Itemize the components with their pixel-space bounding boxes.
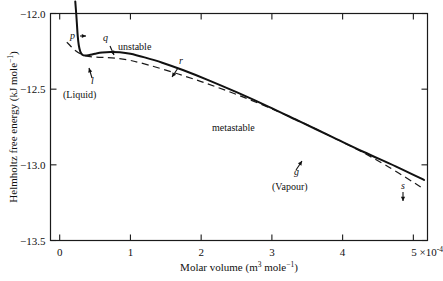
annotation-label-vapour: (Vapour): [272, 181, 308, 193]
x-tick-label: 0: [57, 246, 63, 258]
x-axis-title: Molar volume (m3 mole−1): [180, 260, 298, 274]
x-tick-label: 1: [128, 246, 134, 258]
annotation-label-p: p: [69, 30, 75, 41]
annotation-label-unstable: unstable: [118, 41, 152, 52]
x-tick-label: 3: [269, 246, 275, 258]
annotation-label-liquid: (Liquid): [63, 89, 96, 101]
annotation-label-r: r: [179, 55, 183, 66]
annotation-label-s: s: [401, 180, 405, 191]
y-axis-tick-labels: −12.0−12.5−13.0−13.5: [20, 8, 46, 247]
y-tick-label: −12.0: [20, 8, 46, 20]
y-tick-label: −13.5: [20, 235, 46, 247]
annotation-label-q: q: [103, 32, 108, 43]
x-axis-tick-labels: 012345 ×10-4: [57, 245, 443, 258]
annotation-label-g: g: [294, 166, 299, 177]
x-tick-label: 5 ×10-4: [411, 245, 443, 258]
y-tick-label: −13.0: [20, 159, 46, 171]
figure-container: 012345 ×10-4 −12.0−12.5−13.0−13.5 pql(Li…: [0, 0, 443, 281]
annotation-label-l: l: [91, 75, 94, 86]
x-tick-label: 4: [340, 246, 346, 258]
annotation-label-metastable: metastable: [212, 122, 255, 133]
y-tick-label: −12.5: [20, 83, 46, 95]
y-axis-title: Helmholtz free energy (kJ mole−1): [6, 51, 20, 203]
x-tick-label: 2: [198, 246, 204, 258]
helmholtz-free-energy-chart: 012345 ×10-4 −12.0−12.5−13.0−13.5 pql(Li…: [0, 0, 443, 281]
